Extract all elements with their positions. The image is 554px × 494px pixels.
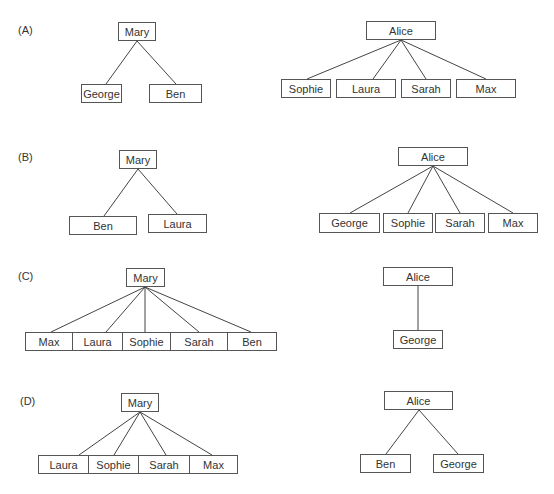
node-alice: Alice bbox=[398, 147, 468, 166]
node-child: Max bbox=[456, 79, 516, 98]
panel-label-b: (B) bbox=[18, 151, 33, 163]
node-child: Sarah bbox=[170, 332, 228, 351]
node-child: George bbox=[81, 84, 122, 103]
node-child: Sophie bbox=[383, 213, 433, 233]
node-child: Sarah bbox=[138, 455, 190, 474]
node-mary: Mary bbox=[119, 150, 157, 169]
panel-label-d: (D) bbox=[20, 395, 35, 407]
node-child: Max bbox=[189, 455, 238, 474]
node-child: Sarah bbox=[401, 79, 451, 98]
node-child: Ben bbox=[360, 454, 411, 473]
node-child: George bbox=[319, 213, 380, 233]
node-child: Laura bbox=[72, 332, 123, 351]
node-child: Ben bbox=[227, 332, 277, 351]
node-child: Sophie bbox=[281, 79, 331, 98]
node-child: Sarah bbox=[435, 213, 485, 233]
node-mary: Mary bbox=[118, 22, 156, 41]
node-child: Laura bbox=[38, 455, 89, 474]
node-child: Sophie bbox=[88, 455, 139, 474]
node-mary: Mary bbox=[121, 393, 159, 412]
node-child: Ben bbox=[149, 84, 202, 103]
node-child: George bbox=[433, 454, 484, 473]
node-child: Laura bbox=[148, 214, 207, 233]
connector-lines bbox=[0, 0, 554, 494]
node-child: Max bbox=[25, 332, 73, 351]
node-alice: Alice bbox=[383, 267, 453, 286]
node-child: Ben bbox=[69, 216, 137, 235]
panel-label-c: (C) bbox=[18, 270, 33, 282]
node-child: George bbox=[393, 330, 443, 349]
node-mary: Mary bbox=[126, 268, 165, 287]
node-alice: Alice bbox=[366, 21, 436, 40]
node-child: Max bbox=[488, 213, 538, 233]
panel-label-a: (A) bbox=[18, 24, 33, 36]
node-child: Laura bbox=[336, 79, 396, 98]
node-alice: Alice bbox=[384, 391, 453, 410]
node-child: Sophie bbox=[122, 332, 171, 351]
